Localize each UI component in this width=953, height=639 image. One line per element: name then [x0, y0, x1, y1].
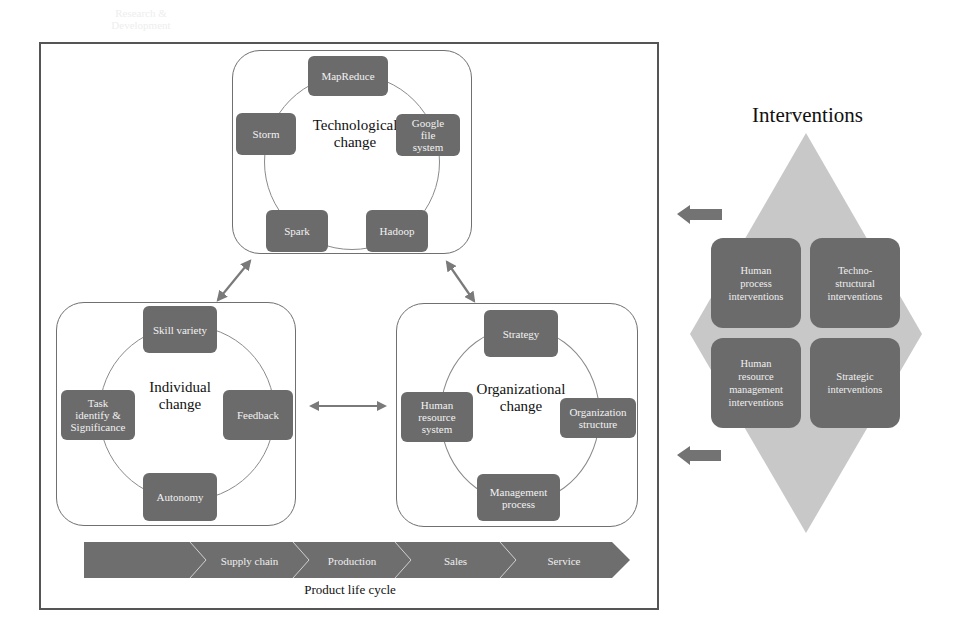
ivhr-line-4: interventions — [729, 396, 784, 409]
ivhr-line-1: Human — [741, 357, 772, 370]
double-arrow-tech-organizational — [447, 262, 474, 301]
interventions-diamond — [690, 133, 922, 533]
product-life-cycle-caption: Product life cycle — [0, 582, 700, 598]
ivhr-line-3: management — [729, 383, 783, 396]
plc-rd-line-1: Research & — [115, 7, 167, 19]
interventions-title: Interventions — [740, 103, 875, 128]
plc-step-research-development: Research & Development — [84, 0, 198, 37]
ivts-line-2: structural — [835, 277, 875, 290]
intervention-strategic: Strategic interventions — [810, 338, 900, 428]
plc-step-service: Service — [508, 542, 620, 579]
left-arrow-upper — [677, 205, 722, 224]
ivts-line-1: Techno- — [838, 264, 872, 277]
intervention-human-process: Human process interventions — [711, 238, 801, 328]
ivst-line-1: Strategic — [836, 370, 873, 383]
intervention-techno-structural: Techno- structural interventions — [810, 238, 900, 328]
plc-step-supply-chain: Supply chain — [198, 542, 301, 579]
plc-rd-line-2: Development — [111, 19, 170, 31]
ivhp-line-1: Human — [741, 264, 772, 277]
plc-step-production: Production — [301, 542, 403, 579]
plc-step-sales: Sales — [403, 542, 508, 579]
ivhp-line-2: process — [740, 277, 772, 290]
double-arrow-tech-individual — [218, 261, 250, 300]
ivts-line-3: interventions — [828, 290, 883, 303]
ivhp-line-3: interventions — [729, 290, 784, 303]
ivhr-line-2: resource — [738, 370, 774, 383]
ivst-line-2: interventions — [828, 383, 883, 396]
left-arrow-lower — [677, 446, 721, 465]
intervention-hr-management: Human resource management interventions — [711, 338, 801, 428]
